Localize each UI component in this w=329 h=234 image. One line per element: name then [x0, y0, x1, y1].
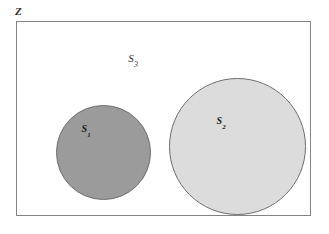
universe-label: Z	[15, 5, 22, 17]
set-label-s1-base: S	[81, 123, 87, 134]
set-circle-s2	[169, 78, 306, 215]
set-label-s1-subscript: 1	[87, 131, 91, 139]
diagram-canvas: Z S1 S2 S3	[0, 0, 329, 234]
set-circle-s1	[56, 105, 151, 200]
set-label-s3: S3	[128, 53, 138, 68]
set-label-s1: S1	[81, 123, 90, 139]
set-label-s3-base: S	[128, 52, 134, 64]
set-label-s2-base: S	[216, 115, 222, 126]
set-label-s2: S2	[216, 115, 225, 131]
universe-rectangle	[16, 21, 311, 216]
set-label-s3-subscript: 3	[134, 60, 138, 69]
set-label-s2-subscript: 2	[222, 123, 226, 131]
